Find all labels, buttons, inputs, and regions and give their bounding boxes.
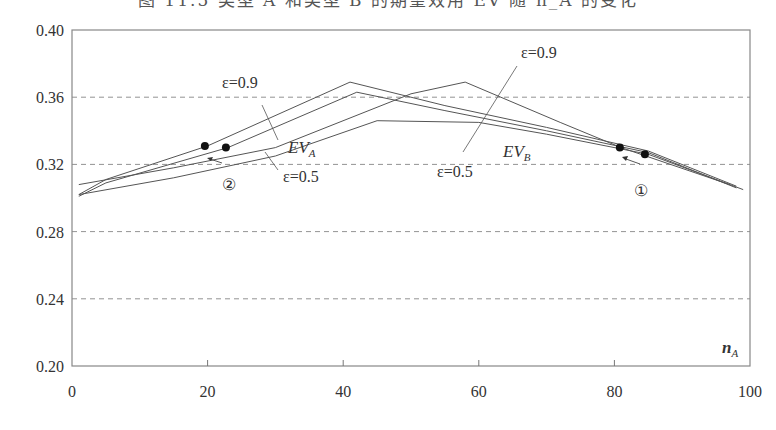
pointer-eps09-b bbox=[463, 66, 517, 152]
equilibrium-dot bbox=[201, 142, 209, 150]
equilibrium-dot bbox=[616, 144, 624, 152]
label-ev-a: EVA bbox=[287, 138, 316, 159]
label-eps05-b: ε=0.5 bbox=[437, 163, 473, 180]
x-tick-label: 80 bbox=[606, 383, 622, 400]
x-axis-label: nA bbox=[722, 338, 738, 359]
y-tick-label: 0.40 bbox=[36, 22, 64, 39]
line-chart: 020406080100 0.400.360.320.280.240.20 ε=… bbox=[0, 0, 776, 430]
label-eps05-a: ε=0.5 bbox=[283, 168, 319, 185]
y-tick-label: 0.36 bbox=[36, 89, 64, 106]
label-eps09-a: ε=0.9 bbox=[222, 74, 258, 91]
x-tick-label: 60 bbox=[471, 383, 487, 400]
x-tick-label: 20 bbox=[200, 383, 216, 400]
gridlines bbox=[72, 97, 750, 299]
pointer-eps09-a bbox=[262, 105, 278, 140]
equilibrium-dot bbox=[222, 144, 230, 152]
x-tick-label: 40 bbox=[335, 383, 351, 400]
label-eps09-b: ε=0.9 bbox=[521, 44, 557, 61]
x-tick-label: 0 bbox=[68, 383, 76, 400]
series-lines bbox=[79, 82, 743, 196]
label-ev-b: EVB bbox=[502, 142, 531, 163]
x-tick-label: 100 bbox=[738, 383, 762, 400]
series-line bbox=[79, 92, 737, 196]
series-line bbox=[79, 82, 737, 195]
pointer-eps05-a bbox=[265, 152, 278, 170]
y-tick-label: 0.32 bbox=[36, 156, 64, 173]
equilibrium-dot bbox=[641, 150, 649, 158]
y-tick-label: 0.20 bbox=[36, 358, 64, 375]
label-circle-2: ② bbox=[222, 176, 236, 193]
y-axis: 0.400.360.320.280.240.20 bbox=[36, 22, 64, 375]
label-circle-1: ① bbox=[634, 182, 648, 199]
y-tick-label: 0.24 bbox=[36, 291, 64, 308]
plot-frame bbox=[72, 30, 750, 366]
arrow-left-icon bbox=[622, 156, 640, 164]
y-tick-label: 0.28 bbox=[36, 224, 64, 241]
